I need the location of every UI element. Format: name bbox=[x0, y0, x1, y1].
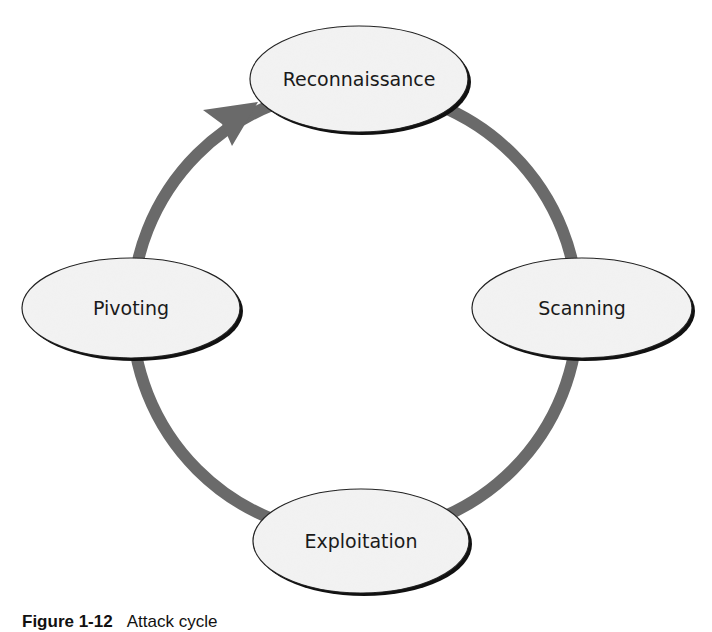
node-scanning: Scanning bbox=[472, 258, 695, 361]
figure-caption: Figure 1-12Attack cycle bbox=[22, 612, 217, 632]
node-label-exploitation: Exploitation bbox=[305, 530, 418, 552]
node-label-pivoting: Pivoting bbox=[93, 297, 169, 319]
node-pivoting: Pivoting bbox=[22, 258, 243, 361]
node-label-reconnaissance: Reconnaissance bbox=[283, 68, 436, 90]
node-label-scanning: Scanning bbox=[538, 297, 626, 319]
node-exploitation: Exploitation bbox=[253, 489, 472, 596]
node-reconnaissance: Reconnaissance bbox=[250, 26, 471, 135]
figure-number: Figure 1-12 bbox=[22, 612, 113, 631]
figure-caption-text: Attack cycle bbox=[127, 612, 218, 631]
